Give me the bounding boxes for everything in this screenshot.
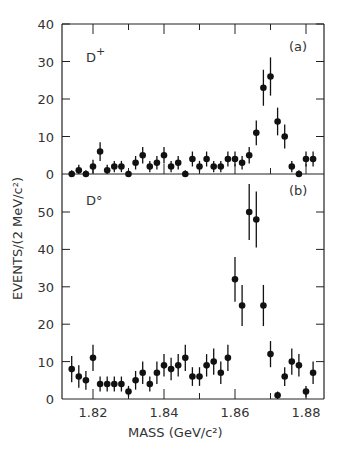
data-point bbox=[154, 156, 161, 170]
data-point bbox=[281, 367, 288, 386]
data-point bbox=[154, 362, 161, 384]
data-point bbox=[175, 354, 182, 376]
data-point bbox=[83, 170, 90, 177]
data-point bbox=[68, 356, 75, 382]
data-point bbox=[147, 377, 154, 392]
y-tick-labels-top: 403020100 bbox=[37, 17, 54, 182]
y-axis-label: EVENTS/(2 MeV/c²) bbox=[10, 177, 25, 300]
panel-tag-b: (b) bbox=[289, 183, 307, 198]
y-tick-label: 10 bbox=[37, 355, 54, 370]
data-point bbox=[111, 377, 118, 392]
y-tick-label: 20 bbox=[37, 317, 54, 332]
data-point bbox=[139, 362, 146, 384]
data-point bbox=[97, 377, 104, 392]
data-point bbox=[111, 161, 118, 172]
data-point bbox=[196, 161, 203, 172]
x-tick-label: 1.88 bbox=[292, 405, 321, 420]
data-point bbox=[147, 161, 154, 172]
x-tick-label: 1.84 bbox=[150, 405, 179, 420]
y-tick-label: 10 bbox=[37, 130, 54, 145]
particle-label-d0: D° bbox=[86, 193, 103, 208]
y-tick-label: 0 bbox=[46, 167, 54, 182]
data-point bbox=[303, 152, 310, 167]
data-point bbox=[203, 152, 210, 167]
data-point bbox=[97, 142, 104, 161]
data-point bbox=[189, 367, 196, 386]
data-point bbox=[125, 170, 132, 177]
data-point bbox=[225, 152, 232, 167]
particle-label-dplus: D bbox=[86, 50, 96, 65]
data-point bbox=[232, 152, 239, 167]
data-point bbox=[232, 257, 239, 302]
data-point bbox=[310, 152, 317, 167]
data-point bbox=[225, 345, 232, 371]
data-point bbox=[210, 161, 217, 172]
data-point bbox=[289, 161, 296, 172]
data-point bbox=[296, 354, 303, 376]
y-tick-label: 30 bbox=[37, 280, 54, 295]
y-tick-label: 40 bbox=[37, 17, 54, 32]
data-point bbox=[274, 108, 281, 136]
data-point bbox=[289, 349, 296, 375]
data-point bbox=[218, 362, 225, 384]
data-point bbox=[196, 367, 203, 386]
data-point bbox=[267, 57, 274, 95]
x-axis-label: MASS (GeV/c²) bbox=[128, 425, 223, 440]
x-tick-labels: 1.821.841.861.88 bbox=[79, 405, 321, 420]
data-point bbox=[239, 156, 246, 170]
mass-spectrum-chart: D + (a) D° (b) 403020100 50403020100 1.8… bbox=[0, 0, 337, 451]
data-point bbox=[246, 147, 253, 164]
data-point bbox=[246, 184, 253, 240]
data-point bbox=[132, 156, 139, 170]
data-point bbox=[161, 147, 168, 164]
data-point bbox=[104, 377, 111, 392]
panel-tag-a: (a) bbox=[289, 39, 307, 54]
y-tick-labels-bottom: 50403020100 bbox=[37, 205, 54, 407]
x-tick-label: 1.86 bbox=[221, 405, 250, 420]
data-point bbox=[310, 362, 317, 384]
data-point bbox=[161, 354, 168, 376]
data-point bbox=[253, 120, 260, 145]
data-point bbox=[125, 386, 132, 397]
data-point bbox=[168, 161, 175, 172]
data-point bbox=[118, 161, 125, 172]
data-point bbox=[182, 170, 189, 177]
data-point bbox=[267, 341, 274, 367]
data-point bbox=[168, 358, 175, 380]
data-point bbox=[260, 70, 267, 106]
data-point bbox=[274, 392, 281, 399]
data-point bbox=[90, 345, 97, 371]
data-point bbox=[68, 170, 75, 177]
data-point bbox=[118, 377, 125, 392]
data-point bbox=[253, 191, 260, 247]
data-point bbox=[104, 165, 111, 174]
data-point bbox=[90, 160, 97, 174]
y-tick-label: 30 bbox=[37, 55, 54, 70]
data-point bbox=[189, 152, 196, 167]
y-tick-label: 20 bbox=[37, 92, 54, 107]
data-point bbox=[76, 365, 83, 387]
x-tick-label: 1.82 bbox=[79, 405, 108, 420]
data-point bbox=[281, 125, 288, 149]
data-point bbox=[76, 165, 83, 174]
data-point bbox=[239, 285, 246, 326]
y-tick-label: 0 bbox=[46, 392, 54, 407]
panel-b: D° (b) bbox=[62, 174, 324, 399]
panel-a: D + (a) bbox=[62, 24, 324, 177]
data-point bbox=[260, 285, 267, 326]
data-point bbox=[210, 349, 217, 375]
data-point bbox=[218, 161, 225, 172]
particle-charge-plus: + bbox=[96, 45, 105, 58]
data-point bbox=[182, 345, 189, 371]
data-point bbox=[83, 371, 90, 390]
y-tick-label: 50 bbox=[37, 205, 54, 220]
data-point bbox=[132, 371, 139, 390]
y-tick-label: 40 bbox=[37, 242, 54, 257]
data-point bbox=[139, 147, 146, 164]
data-point bbox=[296, 170, 303, 177]
data-point bbox=[175, 156, 182, 170]
data-point bbox=[203, 354, 210, 376]
data-point bbox=[303, 386, 310, 397]
